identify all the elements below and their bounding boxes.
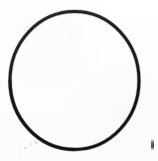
figure-container: [0, 0, 158, 161]
diagram-canvas: [0, 0, 158, 161]
circle-outline-weighted-arc: [10, 81, 75, 150]
